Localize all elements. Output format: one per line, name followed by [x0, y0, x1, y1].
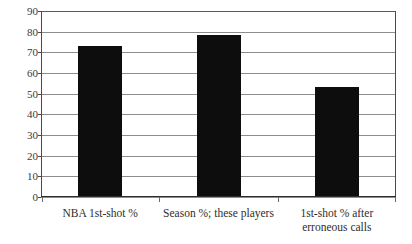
x-axis-label-line: erroneous calls	[278, 220, 396, 234]
bar	[78, 46, 122, 197]
x-axis-category-label: Season %; these players	[159, 206, 277, 220]
x-axis-tick-mark	[278, 197, 279, 202]
y-axis-tick-label: 40	[4, 109, 38, 120]
x-axis-category-label: NBA 1st-shot %	[41, 206, 159, 220]
x-axis-tick-marks	[41, 197, 396, 203]
x-axis-labels: NBA 1st-shot %Season %; these players1st…	[41, 206, 396, 244]
y-axis-line	[41, 11, 42, 197]
x-axis-label-line: Season %; these players	[159, 206, 277, 220]
y-axis-tick-labels: 9080706050403020100	[0, 11, 38, 197]
x-axis-tick-mark	[159, 197, 160, 202]
x-axis-tick-mark	[395, 197, 396, 202]
x-axis-label-line: 1st-shot % after	[278, 206, 396, 220]
plot-area	[41, 11, 396, 197]
gridline	[41, 32, 396, 33]
bar	[197, 35, 241, 197]
x-axis-label-line: NBA 1st-shot %	[41, 206, 159, 220]
y-axis-tick-label: 0	[4, 192, 38, 203]
bar	[315, 87, 359, 197]
y-axis-tick-label: 80	[4, 26, 38, 37]
y-axis-tick-label: 30	[4, 130, 38, 141]
y-axis-tick-label: 60	[4, 68, 38, 79]
y-axis-tick-label: 90	[4, 6, 38, 17]
gridline	[41, 11, 396, 12]
bar-chart: 9080706050403020100 NBA 1st-shot %Season…	[0, 0, 412, 244]
y-axis-tick-label: 10	[4, 171, 38, 182]
y-axis-tick-label: 20	[4, 150, 38, 161]
right-axis-line	[395, 11, 396, 197]
y-axis-tick-label: 50	[4, 88, 38, 99]
x-axis-tick-mark	[42, 197, 43, 202]
y-axis-tick-label: 70	[4, 47, 38, 58]
x-axis-category-label: 1st-shot % aftererroneous calls	[278, 206, 396, 234]
